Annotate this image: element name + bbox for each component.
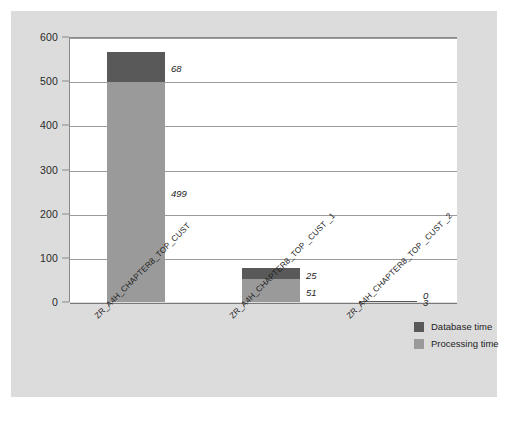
gridline	[70, 303, 457, 304]
y-tick-mark	[62, 125, 69, 126]
legend-item[interactable]: Processing time	[414, 338, 499, 349]
bar-segment-database-time[interactable]	[107, 52, 165, 82]
bar-value-label-processing-time: 499	[171, 187, 187, 198]
y-tick-mark	[62, 169, 69, 170]
bar-value-label-processing-time: 51	[306, 286, 317, 297]
y-tick-label: 100	[40, 252, 58, 264]
bar-value-label-processing-time: 0	[423, 290, 428, 301]
legend-swatch-icon	[414, 339, 424, 349]
chart-figure: 6005004003002001000 68499255130 ZR_A4H_C…	[0, 0, 508, 426]
y-tick-label: 500	[40, 75, 58, 87]
legend-swatch-icon	[414, 322, 424, 332]
legend-item[interactable]: Database time	[414, 321, 499, 332]
legend-label: Processing time	[431, 338, 499, 349]
y-tick-mark	[62, 37, 69, 38]
y-tick-mark	[62, 302, 69, 303]
chart-legend: Database timeProcessing time	[414, 321, 499, 355]
legend-label: Database time	[431, 321, 492, 332]
y-tick-label: 300	[40, 164, 58, 176]
y-tick-label: 200	[40, 208, 58, 220]
gridline	[70, 38, 457, 39]
y-tick-mark	[62, 213, 69, 214]
y-tick-label: 600	[40, 31, 58, 43]
y-axis: 6005004003002001000	[11, 11, 69, 397]
y-tick-mark	[62, 81, 69, 82]
bar-value-label-database-time: 68	[171, 62, 182, 73]
chart-panel: 6005004003002001000 68499255130 ZR_A4H_C…	[11, 11, 497, 397]
bar-value-label-database-time: 25	[306, 269, 317, 280]
bar-group[interactable]	[107, 52, 165, 302]
y-tick-label: 400	[40, 119, 58, 131]
y-tick-mark	[62, 257, 69, 258]
bar-segment-processing-time[interactable]	[107, 82, 165, 302]
y-tick-label: 0	[52, 296, 58, 308]
